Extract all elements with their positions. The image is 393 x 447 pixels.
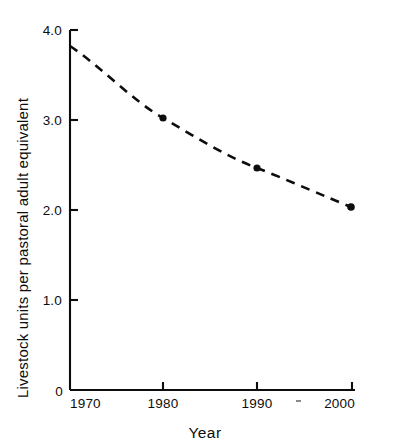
data-point-1980 bbox=[159, 114, 166, 121]
x-tick-label-1990: 1990 bbox=[242, 396, 273, 411]
x-tick-label-1980: 1980 bbox=[148, 396, 179, 411]
chart-background bbox=[0, 0, 393, 447]
y-tick-label-4: 4.0 bbox=[43, 23, 62, 38]
x-axis-title: Year bbox=[189, 424, 222, 441]
y-tick-label-1: 1.0 bbox=[43, 293, 62, 308]
data-point-2000 bbox=[347, 203, 355, 211]
y-tick-label-3: 3.0 bbox=[43, 113, 62, 128]
scan-speck bbox=[296, 400, 301, 402]
livestock-units-line-chart: 4.0 3.0 2.0 1.0 0 1970 1980 1990 2000 Li… bbox=[0, 0, 393, 447]
y-tick-label-2: 2.0 bbox=[43, 203, 62, 218]
data-point-1990 bbox=[253, 164, 260, 171]
x-tick-label-1970: 1970 bbox=[70, 396, 101, 411]
y-axis-title: Livestock units per pastoral adult equiv… bbox=[14, 97, 31, 398]
x-tick-label-2000: 2000 bbox=[324, 396, 355, 411]
y-tick-label-0: 0 bbox=[55, 384, 63, 399]
